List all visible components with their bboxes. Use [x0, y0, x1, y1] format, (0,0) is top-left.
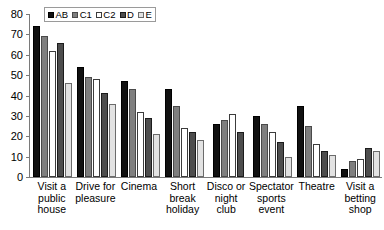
legend-label: E: [145, 10, 151, 20]
x-axis-line: [29, 177, 382, 178]
bar-AB: [121, 81, 128, 177]
x-axis-tick-label: Visit abettingshop: [338, 181, 382, 229]
bar-group: [118, 14, 162, 177]
y-axis-tick-mark: [26, 14, 29, 15]
bar-AB: [341, 169, 348, 177]
bar-C1: [221, 120, 228, 177]
bar-group: [294, 14, 338, 177]
bar-AB: [77, 67, 84, 177]
legend-swatch-icon: [72, 12, 78, 18]
y-axis-tick-mark: [26, 177, 29, 178]
bar-C2: [137, 112, 144, 177]
bar-group: [250, 14, 294, 177]
bar-D: [321, 151, 328, 177]
bar-D: [365, 148, 372, 177]
bar-E: [285, 157, 292, 177]
bar-group: [162, 14, 206, 177]
legend-item-C2[interactable]: C2: [96, 10, 116, 20]
bar-C2: [357, 159, 364, 177]
bar-group: [206, 14, 250, 177]
y-axis-tick-label: 80: [11, 9, 23, 20]
bar-C1: [349, 161, 356, 177]
bar-C1: [261, 124, 268, 177]
x-axis-tick-label: Drive forpleasure: [74, 181, 118, 229]
bar-C2: [181, 128, 188, 177]
y-axis-tick-label: 10: [11, 151, 23, 162]
bar-AB: [213, 124, 220, 177]
legend-label: C1: [80, 10, 92, 20]
bar-C1: [305, 126, 312, 177]
legend-label: AB: [56, 10, 69, 20]
legend-swatch-icon: [96, 12, 102, 18]
bar-C2: [93, 79, 100, 177]
bar-D: [237, 132, 244, 177]
bar-AB: [253, 116, 260, 177]
y-axis-tick-label: 60: [11, 49, 23, 60]
bar-D: [57, 43, 64, 177]
bar-D: [189, 132, 196, 177]
legend-swatch-icon: [138, 12, 144, 18]
bar-D: [277, 142, 284, 177]
legend-swatch-icon: [48, 12, 54, 18]
legend-item-C1[interactable]: C1: [72, 10, 92, 20]
x-axis-tick-label: Spectatorsportsevent: [248, 181, 295, 229]
y-axis-tick-mark: [26, 55, 29, 56]
y-axis-tick-label: 70: [11, 29, 23, 40]
y-axis-tick-label: 40: [11, 90, 23, 101]
y-axis-tick-mark: [26, 34, 29, 35]
bar-D: [145, 118, 152, 177]
bar-E: [373, 151, 380, 177]
y-axis-tick-label: 30: [11, 110, 23, 121]
x-axis-tick-label: Shortbreakholiday: [161, 181, 205, 229]
bar-E: [153, 134, 160, 177]
legend-label: C2: [103, 10, 115, 20]
plot-area: [30, 14, 382, 177]
x-axis-tick-label: Cinema: [117, 181, 161, 229]
bar-E: [329, 155, 336, 177]
y-axis-tick-label: 20: [11, 131, 23, 142]
x-axis-tick-label: Visit apublichouse: [30, 181, 74, 229]
y-axis-tick-mark: [26, 136, 29, 137]
bar-E: [197, 140, 204, 177]
y-axis-tick-mark: [26, 157, 29, 158]
bar-E: [65, 83, 72, 177]
legend-swatch-icon: [120, 12, 126, 18]
y-axis-tick-label: 0: [17, 172, 23, 183]
bar-C1: [85, 77, 92, 177]
bar-C1: [129, 89, 136, 177]
x-axis-tick-label: Disco ornight club: [204, 181, 248, 229]
bar-E: [109, 104, 116, 177]
bar-C2: [229, 114, 236, 177]
legend-item-AB[interactable]: AB: [48, 10, 68, 20]
x-axis-tick-label: Theatre: [295, 181, 339, 229]
bar-C1: [41, 36, 48, 177]
bar-AB: [33, 26, 40, 177]
bar-D: [101, 93, 108, 177]
chart-legend: ABC1C2DE: [44, 7, 156, 22]
bar-C2: [49, 51, 56, 177]
bar-C2: [313, 144, 320, 177]
y-axis-tick-mark: [26, 116, 29, 117]
y-axis-tick-mark: [26, 75, 29, 76]
y-axis-tick-mark: [26, 96, 29, 97]
bar-group: [74, 14, 118, 177]
legend-item-D[interactable]: D: [120, 10, 134, 20]
bar-AB: [297, 106, 304, 177]
bar-chart: 01020304050607080 Visit apublichouseDriv…: [0, 0, 384, 230]
bar-AB: [165, 89, 172, 177]
bar-group: [30, 14, 74, 177]
bar-C2: [269, 132, 276, 177]
y-axis-tick-label: 50: [11, 70, 23, 81]
x-axis: Visit apublichouseDrive forpleasureCinem…: [30, 181, 382, 229]
y-axis: 01020304050607080: [0, 14, 26, 177]
legend-label: D: [127, 10, 134, 20]
bar-C1: [173, 106, 180, 177]
bar-group: [338, 14, 382, 177]
legend-item-E[interactable]: E: [138, 10, 152, 20]
